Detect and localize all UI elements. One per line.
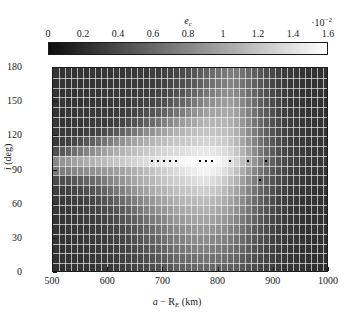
x-axis-label-symbol: a bbox=[153, 296, 158, 307]
colorbar-tick-5: 1 bbox=[221, 28, 226, 40]
y-axis-tick-mark bbox=[53, 272, 57, 273]
y-axis-tick-2: 60 bbox=[12, 199, 22, 209]
colorbar-title-subscript: c bbox=[189, 20, 192, 28]
y-axis-label: i (deg) bbox=[2, 144, 13, 170]
y-axis-tick-1: 30 bbox=[12, 233, 22, 243]
heatmap-cells bbox=[53, 68, 327, 271]
x-axis-tick-1: 600 bbox=[100, 275, 115, 287]
colorbar-gradient bbox=[49, 43, 327, 54]
colorbar-exponent-base: ·10 bbox=[311, 17, 324, 28]
x-axis-tick-mark bbox=[273, 267, 274, 271]
x-axis-tick-mark bbox=[328, 267, 329, 271]
x-axis-tick-mark bbox=[107, 267, 108, 271]
colorbar-group: ec ·10−2 00.20.40.60.811.21.41.6 bbox=[48, 28, 328, 52]
colorbar-tick-6: 1.2 bbox=[252, 28, 265, 40]
x-axis-tick-2: 700 bbox=[155, 275, 170, 287]
y-axis-label-symbol: i bbox=[2, 167, 13, 170]
x-axis-tick-3: 800 bbox=[210, 275, 225, 287]
colorbar-tick-3: 0.6 bbox=[147, 28, 160, 40]
figure-heatmap-ec: ec ·10−2 00.20.40.60.811.21.41.6 0306090… bbox=[0, 0, 354, 323]
colorbar-exponent: ·10−2 bbox=[311, 15, 332, 28]
colorbar-exponent-power: −2 bbox=[325, 16, 332, 24]
x-axis-label-dash: − R bbox=[160, 296, 175, 307]
y-axis-tick-5: 150 bbox=[7, 96, 22, 106]
x-axis-label-subscript: E bbox=[175, 301, 179, 309]
y-axis-label-unit: (deg) bbox=[2, 144, 13, 165]
colorbar-tick-7: 1.4 bbox=[287, 28, 300, 40]
y-axis-tick-6: 180 bbox=[7, 62, 22, 72]
colorbar-tick-labels: 00.20.40.60.811.21.41.6 bbox=[48, 28, 328, 42]
colorbar-tick-8: 1.6 bbox=[322, 28, 335, 40]
heatmap-cell bbox=[323, 263, 327, 271]
colorbar-tick-1: 0.2 bbox=[77, 28, 90, 40]
x-axis-tick-4: 900 bbox=[265, 275, 280, 287]
x-axis-tick-mark bbox=[218, 267, 219, 271]
y-axis-tick-3: 90 bbox=[12, 165, 22, 175]
colorbar-tick-0: 0 bbox=[46, 28, 51, 40]
y-axis-tick-mark bbox=[53, 170, 57, 171]
y-axis-tick-mark bbox=[53, 101, 57, 102]
y-axis-tick-mark bbox=[53, 204, 57, 205]
x-axis-tick-mark bbox=[52, 267, 53, 271]
colorbar-tick-4: 0.8 bbox=[182, 28, 195, 40]
x-axis-label-unit: (km) bbox=[182, 296, 201, 307]
colorbar-tick-2: 0.4 bbox=[112, 28, 125, 40]
x-axis-tick-0: 500 bbox=[45, 275, 60, 287]
heatmap-plot-area bbox=[52, 67, 328, 272]
y-axis-tick-mark bbox=[53, 135, 57, 136]
y-axis-tick-mark bbox=[53, 238, 57, 239]
x-axis-tick-mark bbox=[162, 267, 163, 271]
y-axis-tick-0: 0 bbox=[17, 267, 22, 277]
y-axis-tick-mark bbox=[53, 67, 57, 68]
y-axis-tick-4: 120 bbox=[7, 130, 22, 140]
colorbar-bar bbox=[48, 42, 328, 55]
x-axis-tick-5: 1000 bbox=[318, 275, 338, 287]
x-axis-label: a − RE (km) bbox=[0, 296, 354, 309]
